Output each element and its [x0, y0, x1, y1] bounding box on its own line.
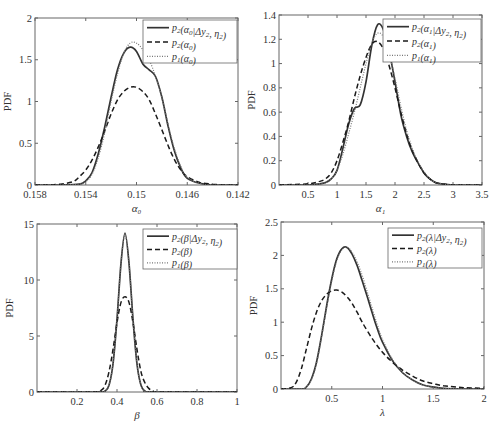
x-tick-label: 2 [481, 393, 486, 404]
y-tick-label: 1.2 [263, 34, 276, 45]
x-tick-label: 0.154 [74, 189, 98, 200]
legend: p2(α0|Δy2, η2)p2(α0)p1(α0) [143, 20, 237, 67]
y-tick-label: 15 [24, 219, 35, 230]
y-tick-label: 1.4 [263, 10, 277, 21]
x-tick-label: 0.6 [150, 396, 163, 407]
y-tick-label: 1.5 [265, 283, 278, 294]
y-tick-label: 0.6 [263, 107, 276, 118]
x-tick-label: 0.5 [325, 393, 338, 404]
legend: p2(α1|Δy2, η2)p2(α1)p1(α1) [383, 19, 481, 66]
legend: p2(λ|Δy2, η2)p2(λ)p1(λ) [388, 228, 482, 270]
legend: p2(β|Δy2, η2)p2(β)p1(β) [143, 229, 237, 271]
y-tick-label: 5 [29, 331, 34, 342]
x-tick-label: 0.2 [70, 396, 83, 407]
subplot-lambda: 0.511.5200.511.522.5λPDFp2(λ|Δy2, η2)p2(… [248, 217, 487, 419]
series-line-dashed [37, 297, 237, 392]
x-tick-label: 0.5 [301, 189, 314, 200]
x-tick-label: 1 [380, 393, 385, 404]
figure-canvas: 0.1580.1540.150.1460.14200.511.52α₀PDFp2… [0, 0, 494, 422]
y-tick-label: 0.4 [263, 131, 277, 142]
x-axis-label: λ [379, 406, 385, 418]
series-line-solid [35, 47, 238, 185]
series-line-dotted [281, 247, 484, 389]
x-tick-label: 2.5 [417, 189, 430, 200]
y-axis-label: PDF [4, 298, 15, 317]
y-tick-label: 1.5 [19, 54, 32, 65]
x-tick-label: 2 [392, 189, 397, 200]
y-tick-label: 2 [273, 250, 278, 261]
y-axis-label: PDF [2, 92, 13, 111]
x-tick-label: 1.5 [427, 393, 440, 404]
y-axis-label: PDF [246, 90, 257, 109]
series-line-dotted [35, 42, 238, 185]
x-tick-label: 1.5 [359, 189, 372, 200]
y-tick-label: 0.8 [263, 82, 276, 93]
series-line-dashed [281, 290, 484, 389]
x-tick-label: 1 [334, 189, 339, 200]
x-tick-label: 0.15 [127, 189, 145, 200]
x-tick-label: 1 [234, 396, 239, 407]
subplot-alpha0: 0.1580.1540.150.1460.14200.511.52α₀PDFp2… [2, 13, 250, 215]
y-tick-label: 0.2 [263, 155, 276, 166]
y-tick-label: 1 [271, 58, 276, 69]
subplot-alpha1: 0.511.522.533.500.20.40.60.811.21.4α₁PDF… [246, 10, 489, 215]
series-line-dashed [35, 87, 238, 185]
x-axis-label: α₀ [132, 202, 142, 214]
y-axis-label: PDF [248, 296, 259, 315]
x-tick-label: 0.8 [190, 396, 203, 407]
x-axis-label: α₁ [376, 202, 386, 214]
y-tick-label: 2.5 [265, 217, 278, 228]
x-tick-label: 0.146 [175, 189, 199, 200]
x-tick-label: 0.158 [23, 189, 47, 200]
y-tick-label: 1 [273, 317, 278, 328]
x-axis-label: β [133, 409, 140, 421]
x-tick-label: 3 [450, 189, 455, 200]
y-tick-label: 0 [27, 180, 32, 191]
y-tick-label: 0.5 [19, 138, 32, 149]
x-tick-label: 0.142 [226, 189, 250, 200]
subplot-beta: 0.20.40.60.81051015βPDFp2(β|Δy2, η2)p2(β… [4, 219, 240, 422]
x-tick-label: 3.5 [475, 189, 488, 200]
y-tick-label: 0 [29, 387, 34, 398]
y-tick-label: 0 [271, 180, 276, 191]
y-tick-label: 2 [27, 13, 32, 24]
series-line-dashed [279, 41, 482, 185]
y-tick-label: 1 [27, 96, 32, 107]
y-tick-label: 0 [273, 384, 278, 395]
y-tick-label: 0.5 [265, 350, 278, 361]
x-tick-label: 0.4 [110, 396, 124, 407]
y-tick-label: 10 [24, 275, 35, 286]
